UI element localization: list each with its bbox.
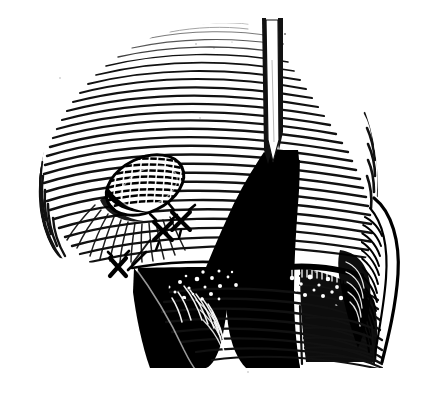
- figure-root: [0, 0, 423, 398]
- engraving-illustration: [0, 0, 423, 398]
